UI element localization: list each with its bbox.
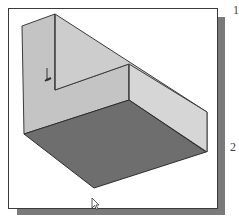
mouse-pointer-icon [92, 198, 99, 210]
side-label-top: 1 [233, 4, 239, 16]
side-label-middle: 2 [230, 141, 236, 153]
solid-model [0, 0, 239, 222]
